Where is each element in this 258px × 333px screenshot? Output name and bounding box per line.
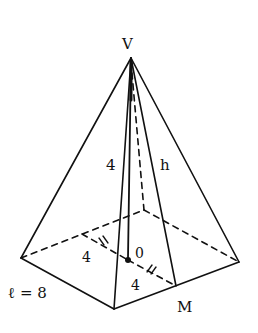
- apex-label: V: [121, 35, 134, 53]
- half-side-label-left: 4: [82, 249, 91, 265]
- visible-edges: [21, 58, 239, 309]
- side-length-label: ℓ = 8: [8, 284, 47, 302]
- slant-edge-label: 4: [106, 156, 116, 174]
- half-side-label-right: 4: [131, 277, 140, 293]
- midpoint-label: M: [177, 298, 192, 316]
- center-point: [125, 257, 131, 263]
- center-label: 0: [135, 245, 144, 261]
- apothem-label: h: [160, 156, 170, 174]
- pyramid-diagram: V 4 h 0 4 4 M ℓ = 8: [0, 0, 258, 333]
